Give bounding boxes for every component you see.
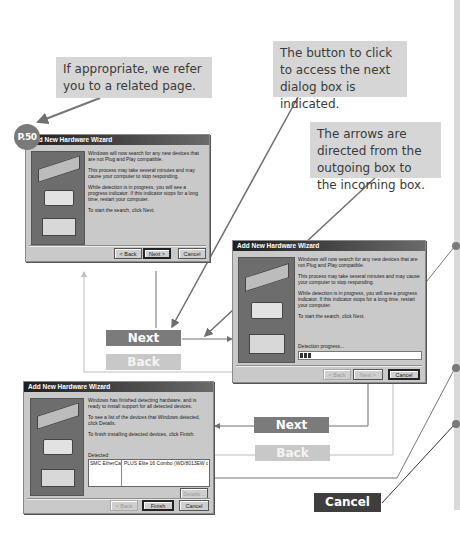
callout-button-indicated: The button to click to access the next d… — [273, 41, 407, 97]
back-button[interactable]: < Back — [114, 248, 142, 259]
scanner-icon — [249, 334, 285, 354]
back-label-1: Back — [106, 354, 181, 370]
dialog-body: Windows has finished detecting hardware,… — [88, 397, 210, 441]
wizard-dialog-finished: Add New Hardware Wizard Windows has fini… — [23, 381, 214, 514]
wizard-illustration — [238, 257, 295, 363]
finish-button[interactable]: Finish — [142, 500, 174, 511]
cancel-label: Cancel — [314, 493, 381, 512]
next-button[interactable]: Next > — [143, 248, 171, 259]
wizard-illustration — [30, 398, 84, 496]
expansion-card-icon — [245, 263, 289, 292]
detection-progress-bar — [298, 351, 422, 360]
list-item[interactable]: SMC EtherCard — [90, 460, 121, 467]
expansion-card-icon — [37, 402, 79, 430]
sidebar-marker-dot — [452, 420, 460, 428]
expansion-card-icon — [38, 155, 80, 183]
dialog-title: Add New Hardware Wizard — [233, 241, 425, 251]
sidebar-marker-dot — [452, 242, 460, 250]
back-button[interactable]: < Back — [323, 369, 351, 380]
scanner-icon — [42, 218, 76, 236]
progress-label: Detection progress... — [298, 343, 422, 349]
drive-icon — [44, 190, 74, 206]
page-edge-strip — [454, 0, 460, 510]
back-button[interactable]: < Back — [110, 500, 138, 511]
separator — [236, 365, 422, 367]
wizard-dialog-search: Add New Hardware Wizard Windows will now… — [25, 134, 210, 262]
next-label-2: Next — [254, 417, 329, 433]
dialog-body: Windows will now search for any new devi… — [88, 150, 206, 217]
dialog-title: Add New Hardware Wizard — [24, 382, 213, 392]
callout-arrows-direction: The arrows are directed from the outgoin… — [310, 122, 441, 178]
separator — [29, 245, 206, 247]
cancel-button[interactable]: Cancel — [388, 369, 420, 380]
drive-icon — [251, 302, 283, 319]
dialog-body: Windows will now search for any new devi… — [298, 256, 422, 323]
wizard-dialog-detecting: Add New Hardware Wizard Windows will now… — [232, 240, 426, 383]
list-item[interactable]: PLUS Elite 16 Combo (WD/8013EW or ... — [124, 460, 208, 467]
wizard-illustration — [31, 151, 85, 245]
next-button[interactable]: Next > — [353, 369, 383, 380]
scanner-icon — [41, 469, 75, 487]
next-label-1: Next — [106, 330, 181, 346]
drive-icon — [43, 439, 73, 455]
dialog-title: Add New Hardware Wizard — [26, 135, 209, 145]
page-reference-badge: P.50 — [14, 124, 40, 150]
cancel-button[interactable]: Cancel — [179, 500, 209, 511]
cancel-button[interactable]: Cancel — [178, 248, 206, 259]
sidebar-marker-dot — [452, 364, 460, 372]
callout-related-page: If appropriate, we refer you to a relate… — [56, 57, 212, 98]
detected-label: Detected: — [88, 452, 148, 458]
back-label-2: Back — [255, 445, 330, 461]
detected-devices-list[interactable]: SMC EtherCard PLUS Elite 16 Combo (WD/80… — [88, 459, 210, 487]
